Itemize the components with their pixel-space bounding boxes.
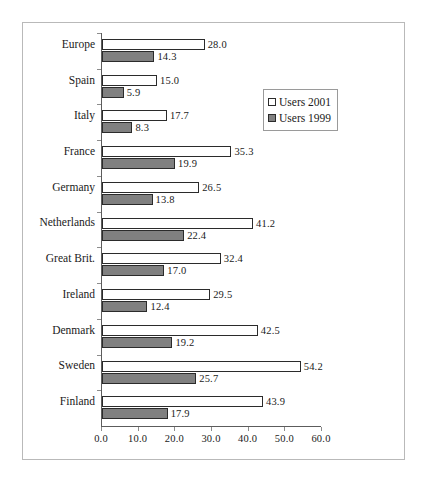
bar-value-label: 22.4 [187,230,206,241]
value-axis-tick [284,427,285,431]
bar-users-1999 [102,408,168,419]
bar-users-1999 [102,230,184,241]
category-axis-label: Sweden [59,359,95,371]
category-axis-label: Germany [52,181,95,193]
bar-value-label: 14.3 [157,51,176,62]
bar-users-2001 [102,396,263,407]
bar-group: Germany26.513.8 [101,176,321,212]
bar-value-label: 5.9 [127,87,141,98]
bar-users-2001 [102,110,167,121]
bar-users-2001 [102,325,258,336]
bar-value-label: 17.9 [171,408,190,419]
bar-group: Netherlands41.222.4 [101,212,321,248]
chart-legend: Users 2001 Users 1999 [263,89,338,131]
white-square-icon [268,98,276,106]
bar-value-label: 26.5 [202,182,221,193]
bar-group: France35.319.9 [101,140,321,176]
legend-item-label: Users 2001 [279,96,331,108]
bar-users-1999 [102,373,196,384]
bar-value-label: 8.3 [135,122,149,133]
category-axis-label: Denmark [52,324,95,336]
category-axis-label: Finland [60,395,95,407]
value-axis-tick [248,427,249,431]
bar-value-label: 12.4 [150,301,169,312]
bar-users-2001 [102,146,231,157]
bar-value-label: 28.0 [208,39,227,50]
bar-users-1999 [102,194,153,205]
bar-users-2001 [102,361,301,372]
bar-value-label: 15.0 [160,75,179,86]
bar-users-1999 [102,158,175,169]
bar-value-label: 43.9 [266,396,285,407]
legend-item-users-2001: Users 2001 [268,94,331,110]
category-axis-label: Great Brit. [46,252,95,264]
bar-value-label: 17.0 [167,265,186,276]
value-axis-tick [321,427,322,431]
bar-users-1999 [102,301,147,312]
bar-users-1999 [102,51,154,62]
bar-group: Europe28.014.3 [101,33,321,69]
value-axis-tick [174,427,175,431]
bar-users-1999 [102,265,164,276]
bar-users-2001 [102,75,157,86]
value-axis-tick [211,427,212,431]
value-axis-tick-label: 60.0 [299,433,343,445]
bar-users-2001 [102,182,199,193]
bar-value-label: 19.9 [178,158,197,169]
chart-figure: 0.010.020.030.040.050.060.0 Europe28.014… [22,22,405,460]
gray-square-icon [268,114,276,122]
bar-value-label: 19.2 [175,337,194,348]
bar-value-label: 17.7 [170,110,189,121]
category-axis-label: Netherlands [39,216,95,228]
bar-users-2001 [102,39,205,50]
bar-value-label: 13.8 [156,194,175,205]
bar-users-1999 [102,122,132,133]
legend-item-users-1999: Users 1999 [268,110,331,126]
bar-group: Great Brit.32.417.0 [101,247,321,283]
bar-value-label: 41.2 [256,218,275,229]
category-axis-label: France [64,145,95,157]
bar-users-2001 [102,253,221,264]
bar-value-label: 42.5 [261,325,280,336]
bar-users-2001 [102,289,210,300]
bar-value-label: 54.2 [304,361,323,372]
bar-group: Ireland29.512.4 [101,283,321,319]
legend-item-label: Users 1999 [279,112,331,124]
category-axis-label: Europe [62,38,95,50]
bar-users-2001 [102,218,253,229]
category-axis-label: Italy [74,109,95,121]
bar-group: Finland43.917.9 [101,390,321,426]
bar-group: Denmark42.519.2 [101,319,321,355]
bar-group: Sweden54.225.7 [101,355,321,391]
value-axis-tick [138,427,139,431]
category-axis-label: Spain [69,74,95,86]
category-axis-label: Ireland [62,288,95,300]
bar-users-1999 [102,337,172,348]
bar-value-label: 32.4 [224,253,243,264]
bar-value-label: 35.3 [234,146,253,157]
value-axis-tick [101,427,102,431]
bar-value-label: 29.5 [213,289,232,300]
bar-value-label: 25.7 [199,373,218,384]
bar-users-1999 [102,87,124,98]
